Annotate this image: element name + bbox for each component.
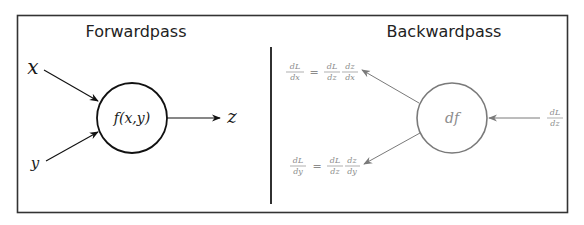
forward-backward-diagram: Forwardpass x y f(x,y) z Backwardpass dL… — [0, 0, 584, 225]
fraction-denominator: dy — [347, 167, 357, 176]
fraction-denominator: dy — [293, 167, 303, 176]
forward-node-label: f(x,y) — [113, 110, 150, 126]
fraction-denominator: dx — [290, 73, 300, 82]
backward-pass-title: Backwardpass — [387, 22, 502, 41]
fraction-numerator: dz — [347, 156, 357, 165]
input-y-label: y — [30, 154, 40, 172]
output-z-label: z — [226, 106, 237, 127]
equals-sign: = — [312, 160, 321, 173]
fraction-numerator: dL — [290, 62, 300, 71]
fraction-numerator: dz — [345, 62, 355, 71]
fraction-numerator: dL — [330, 156, 340, 165]
fraction-numerator: dL — [293, 156, 303, 165]
forward-pass-title: Forwardpass — [86, 22, 187, 41]
equals-sign: = — [309, 66, 318, 79]
input-x-label: x — [27, 55, 38, 79]
fraction-numerator: dL — [550, 108, 560, 117]
fraction-denominator: dx — [345, 73, 355, 82]
fraction-denominator: dz — [330, 167, 340, 176]
fraction-denominator: dz — [550, 119, 560, 128]
fraction-numerator: dL — [327, 62, 337, 71]
fraction-denominator: dz — [327, 73, 337, 82]
